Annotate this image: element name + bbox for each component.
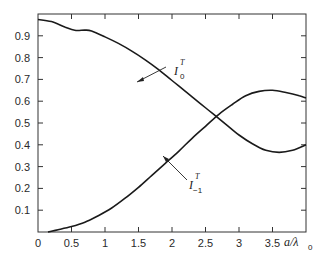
label-i0-sub: 0 xyxy=(180,72,185,81)
x-tick-label: 2 xyxy=(169,237,175,249)
label-i0-sup: T xyxy=(180,58,185,67)
label-i-minus1: I T −1 xyxy=(163,156,203,195)
label-i0-main: I xyxy=(173,64,179,78)
x-tick-label: 2.5 xyxy=(198,237,213,249)
x-tick-label: 1 xyxy=(102,237,108,249)
x-tick-label: 0.5 xyxy=(64,237,79,249)
x-axis-label: a/λ 0 xyxy=(284,235,313,252)
y-tick-label: 0.9 xyxy=(15,30,30,42)
x-axis-label-main: a/λ xyxy=(284,235,299,249)
y-tick-label: 0.2 xyxy=(15,182,30,194)
y-axis-ticks xyxy=(38,36,306,210)
y-tick-label: 0.3 xyxy=(15,161,30,173)
x-axis-tick-labels: 00.511.522.533.5 xyxy=(35,237,280,249)
y-tick-label: 0.4 xyxy=(15,139,30,151)
arrowhead-i0-icon xyxy=(137,77,144,82)
label-i-minus1-sub: −1 xyxy=(193,186,203,195)
x-tick-label: 0 xyxy=(35,237,41,249)
chart: 00.511.522.533.5 0.10.20.30.40.50.60.70.… xyxy=(0,0,326,260)
label-i-minus1-sup: T xyxy=(195,172,200,181)
x-tick-label: 3 xyxy=(236,237,242,249)
plot-frame xyxy=(38,14,306,232)
x-tick-label: 3.5 xyxy=(265,237,280,249)
y-tick-label: 0.1 xyxy=(15,204,30,216)
x-axis-label-sub: 0 xyxy=(308,243,313,252)
y-tick-label: 0.6 xyxy=(15,95,30,107)
x-axis-ticks xyxy=(72,14,273,232)
label-i0: I T 0 xyxy=(137,58,185,82)
curve-i0-transmitted xyxy=(38,20,306,153)
y-tick-label: 0.7 xyxy=(15,73,30,85)
y-tick-label: 0.5 xyxy=(15,117,30,129)
curve-i-minus1-transmitted xyxy=(48,90,306,232)
y-tick-label: 0.8 xyxy=(15,52,30,64)
y-axis-tick-labels: 0.10.20.30.40.50.60.70.80.9 xyxy=(15,30,30,216)
x-tick-label: 1.5 xyxy=(131,237,146,249)
